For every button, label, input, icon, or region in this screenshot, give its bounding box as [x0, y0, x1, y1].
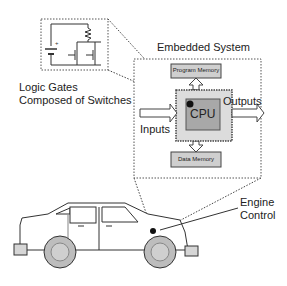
logic-gates-label-1: Logic Gates [19, 81, 78, 94]
svg-text:+: + [55, 40, 59, 46]
program-memory-label: Program Memory [171, 67, 221, 73]
engine-label-1: Engine [240, 196, 274, 209]
logic-gates-label-2: Composed of Switches [19, 94, 132, 107]
engine-label-2: Control [240, 209, 275, 222]
data-memory-label: Data Memory [171, 156, 221, 162]
car [14, 203, 198, 268]
logic-gates-box: + [41, 19, 108, 70]
cpu-label: CPU [190, 108, 215, 121]
outputs-label: Outputs [223, 95, 262, 108]
embedded-system-title: Embedded System [157, 41, 250, 54]
engine-control-dot [150, 228, 156, 234]
inputs-label: Inputs [140, 123, 170, 136]
